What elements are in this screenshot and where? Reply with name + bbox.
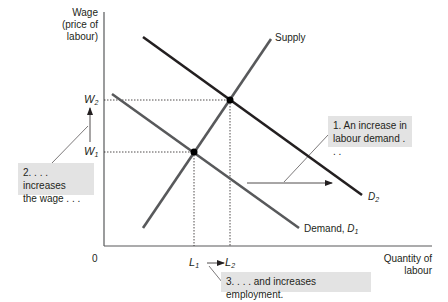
leader-line-2 <box>52 126 88 163</box>
x-axis-label: Quantity of labour <box>372 253 432 277</box>
origin-label: 0 <box>92 253 98 265</box>
y-axis-label-line2: (price of <box>52 19 98 31</box>
annotation-box-3: 3. . . . and increases employment. <box>221 272 371 292</box>
annotation-box-1: 1. An increase in labour demand . . . <box>328 116 412 147</box>
supply-curve <box>143 39 271 228</box>
annotation-1-line2: labour demand . . . <box>333 132 407 158</box>
demand1-curve <box>112 94 299 228</box>
equilibrium-point-1 <box>191 149 198 156</box>
x-axis-label-line1: Quantity of <box>372 253 432 265</box>
demand1-label: Demand, D1 <box>304 223 359 238</box>
annotation-2-line2: the wage . . . <box>23 192 89 205</box>
tick-l1: L1 <box>189 256 199 272</box>
equilibrium-point-2 <box>227 97 234 104</box>
annotation-2-line1: 2. . . . increases <box>23 166 89 192</box>
tick-w2: W2 <box>84 93 98 109</box>
annotation-3-text: 3. . . . and increases employment. <box>226 275 366 301</box>
tick-l2: L2 <box>225 256 235 272</box>
x-axis-label-line2: labour <box>372 265 432 277</box>
annotation-box-2: 2. . . . increases the wage . . . <box>18 163 94 195</box>
y-axis-label-line1: Wage <box>52 7 98 19</box>
y-axis-label: Wage (price of labour) <box>52 7 98 43</box>
supply-label: Supply <box>275 32 306 44</box>
annotation-1-line1: 1. An increase in <box>333 119 407 132</box>
demand2-label: D2 <box>368 191 379 206</box>
y-axis-label-line3: labour) <box>52 31 98 43</box>
tick-w1: W1 <box>84 145 98 161</box>
